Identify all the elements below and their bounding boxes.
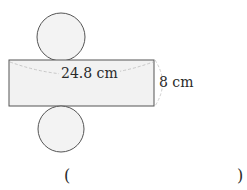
answer-close-paren: ) [237,168,243,184]
top-base-circle [37,13,85,61]
bottom-base-circle [38,106,84,152]
cylinder-net-figure [0,0,247,190]
answer-open-paren: ( [64,168,70,184]
answer-blank[interactable] [76,168,234,186]
height-label: 8 cm [159,75,193,89]
length-label: 24.8 cm [59,66,120,80]
